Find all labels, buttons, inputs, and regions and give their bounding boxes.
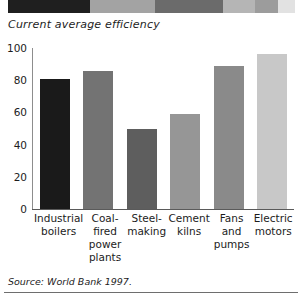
- banner-segment-6: [278, 0, 295, 13]
- y-tick-label-60: 60: [14, 107, 27, 118]
- bar-fans-and-pumps: [214, 66, 244, 209]
- bar-slot: [164, 48, 208, 209]
- bar-slot: [33, 48, 77, 209]
- x-label-1: Coal-fired power plants: [84, 212, 126, 264]
- x-label-4: Fans and pumps: [211, 212, 253, 251]
- banner-segment-4: [223, 0, 255, 13]
- y-tick-label-0: 0: [20, 204, 27, 215]
- banner-segment-1: [8, 0, 90, 13]
- banner-segment-2: [90, 0, 155, 13]
- x-label-0: Industrial boilers: [33, 212, 84, 238]
- banner-segment-0: [0, 0, 8, 13]
- banner-segment-7: [295, 0, 302, 13]
- bar-slot: [77, 48, 121, 209]
- y-tick-label-40: 40: [14, 139, 27, 150]
- y-tick-label-20: 20: [14, 172, 27, 183]
- source-note: Source: World Bank 1997.: [8, 276, 132, 287]
- top-color-banner: [0, 0, 302, 13]
- y-tick-label-100: 100: [7, 43, 27, 54]
- banner-segment-5: [255, 0, 278, 13]
- bar-coal-fired-power-plants: [83, 71, 113, 209]
- chart-title: Current average efficiency: [8, 18, 160, 31]
- x-label-3: Cement kilns: [168, 212, 211, 238]
- bar-electric-motors: [257, 54, 287, 209]
- bar-slot: [207, 48, 251, 209]
- y-tick-label-80: 80: [14, 75, 27, 86]
- bar-steel-making: [127, 129, 157, 210]
- bar-series: [33, 48, 294, 209]
- x-label-5: Electric motors: [252, 212, 294, 238]
- x-axis-line: [32, 209, 294, 210]
- bottom-divider: [4, 292, 298, 293]
- bar-slot: [120, 48, 164, 209]
- x-label-2: Steel-making: [126, 212, 168, 238]
- bar-cement-kilns: [170, 114, 200, 209]
- plot-area: 100806040200: [32, 48, 294, 209]
- bar-industrial-boilers: [40, 79, 70, 209]
- bar-slot: [251, 48, 295, 209]
- banner-segment-3: [155, 0, 223, 13]
- x-axis-category-labels: Industrial boilersCoal-fired power plant…: [33, 212, 294, 264]
